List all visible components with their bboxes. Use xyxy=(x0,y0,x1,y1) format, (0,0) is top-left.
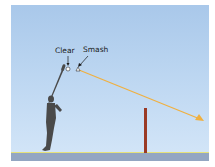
clear-label: Clear xyxy=(55,47,75,55)
smash-label: Smash xyxy=(83,46,108,54)
player-silhouette-icon xyxy=(42,64,66,151)
clear-shuttle-icon xyxy=(66,67,70,71)
smash-shuttle-icon xyxy=(76,67,80,71)
diagram-graphics xyxy=(0,0,215,167)
net-post xyxy=(144,108,147,153)
smash-pointer-arrow xyxy=(78,56,88,67)
smash-trajectory-arrow xyxy=(79,70,204,121)
clear-pointer-arrow xyxy=(67,56,70,66)
